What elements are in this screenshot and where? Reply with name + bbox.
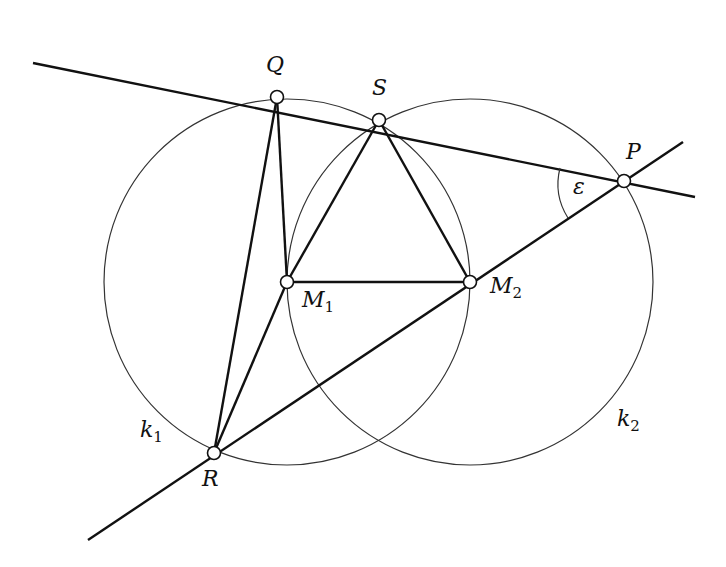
label-M1: M1	[301, 287, 334, 316]
point-Q	[271, 91, 284, 104]
line-QSP	[33, 63, 695, 197]
line-RP	[88, 142, 683, 540]
point-M2	[464, 276, 477, 289]
label-S: S	[372, 75, 387, 100]
label-M2: M2	[489, 273, 522, 302]
label-k2: k2	[617, 406, 640, 435]
point-M1	[281, 276, 294, 289]
point-S	[373, 114, 386, 127]
label-P: P	[625, 139, 642, 164]
geometry-diagram: Q S P R ε M1 M2 k1 k2	[0, 0, 726, 567]
label-k1: k1	[140, 417, 163, 446]
segment-QM1	[277, 97, 287, 282]
segment-QR	[214, 97, 277, 453]
label-Q: Q	[266, 52, 284, 77]
label-R: R	[201, 466, 219, 491]
point-R	[208, 447, 221, 460]
point-P	[618, 175, 631, 188]
segment-M1S	[287, 120, 379, 282]
label-epsilon: ε	[573, 174, 585, 199]
segment-SM2	[379, 120, 470, 282]
segment-RM1	[214, 282, 287, 453]
angle-epsilon-arc	[558, 168, 568, 218]
